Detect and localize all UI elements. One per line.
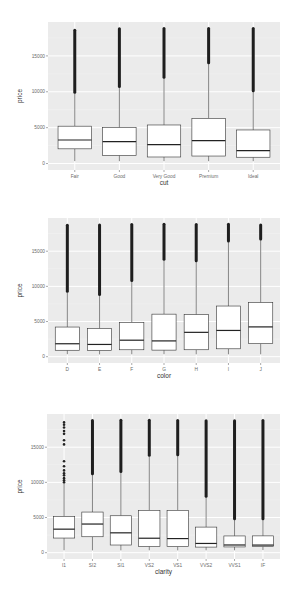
x-tick-label: IF [261,563,265,568]
x-tick-label: Premium [199,174,218,179]
chart-price-by-cut: 050001000015000FairGoodVery GoodPremiumI… [0,0,298,200]
outlier-point [63,421,66,424]
iqr-box [139,510,160,546]
x-tick-label: Ideal [248,174,258,179]
x-tick-label: D [66,367,70,372]
x-tick-label: I1 [62,563,66,568]
x-tick-label: Good [114,174,126,179]
y-tick-label: 0 [42,161,45,166]
x-tick-label: E [98,367,101,372]
x-tick-label: VVS1 [228,563,241,568]
iqr-box [237,130,270,157]
x-tick-label: VS1 [173,563,182,568]
y-tick-label: 10000 [32,284,46,289]
iqr-box [195,527,216,547]
y-axis-title: price [16,89,24,103]
iqr-box [55,327,79,350]
y-tick-label: 0 [41,550,44,555]
iqr-box [58,126,91,149]
chart-price-by-clarity: 050001000015000I1SI2SI1VS2VS1VVS2VVS1IFc… [0,396,298,601]
y-tick-label: 10000 [32,89,46,94]
outlier-point [63,443,66,446]
x-axis-title: cut [160,179,169,186]
x-tick-label: F [130,367,133,372]
iqr-box [110,516,131,545]
y-tick-label: 0 [42,354,45,359]
y-tick-label: 10000 [31,480,45,485]
x-tick-label: Very Good [153,174,176,179]
iqr-box [152,314,176,350]
y-tick-label: 5000 [33,515,44,520]
y-tick-label: 5000 [34,125,45,130]
outlier-point [63,472,66,475]
chart-price-by-color: 050001000015000DEFGHIJcolorprice [0,196,298,396]
x-axis-title: clarity [155,568,173,576]
y-tick-label: 15000 [32,249,46,254]
iqr-box [87,329,111,351]
outlier-point [63,423,66,426]
outlier-point [63,460,66,463]
iqr-box [192,118,225,156]
iqr-box [249,303,273,344]
outlier-point [63,465,66,468]
iqr-box [167,510,188,546]
x-tick-label: VS2 [145,563,154,568]
outlier-point [63,477,66,480]
outlier-point [63,433,66,436]
x-tick-label: SI1 [117,563,125,568]
x-tick-label: J [259,367,262,372]
iqr-box [120,322,144,349]
x-tick-label: SI2 [89,563,97,568]
x-axis-title: color [157,372,172,379]
outlier-point [63,469,66,472]
outlier-point [63,430,66,433]
outlier-point [63,439,66,442]
x-tick-label: Fair [71,174,80,179]
y-tick-label: 15000 [32,54,46,59]
outlier-point [63,426,66,429]
y-axis-title: price [16,479,24,493]
x-tick-label: I [228,367,229,372]
x-tick-label: VVS2 [200,563,213,568]
x-tick-label: G [162,367,166,372]
iqr-box [216,306,240,349]
y-axis-title: price [16,283,24,297]
iqr-box [147,125,180,157]
y-tick-label: 15000 [31,445,45,450]
y-tick-label: 5000 [34,319,45,324]
iqr-box [53,516,74,538]
x-tick-label: H [194,367,198,372]
